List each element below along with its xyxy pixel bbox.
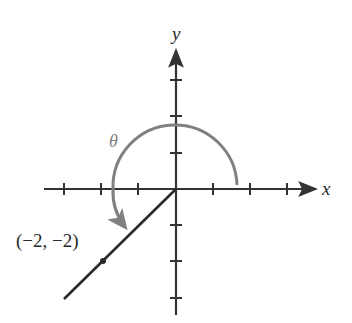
- point-label: (−2, −2): [16, 230, 79, 252]
- angle-theta-arc: θ: [109, 125, 237, 227]
- coordinate-diagram: x y θ (−2, −2): [0, 0, 352, 323]
- point-marker: [100, 258, 106, 264]
- x-axis: x: [44, 178, 331, 199]
- terminal-ray: (−2, −2): [16, 189, 176, 299]
- theta-label: θ: [109, 131, 118, 151]
- y-axis-label: y: [170, 23, 181, 44]
- y-axis: y: [170, 23, 182, 315]
- x-axis-label: x: [321, 178, 331, 199]
